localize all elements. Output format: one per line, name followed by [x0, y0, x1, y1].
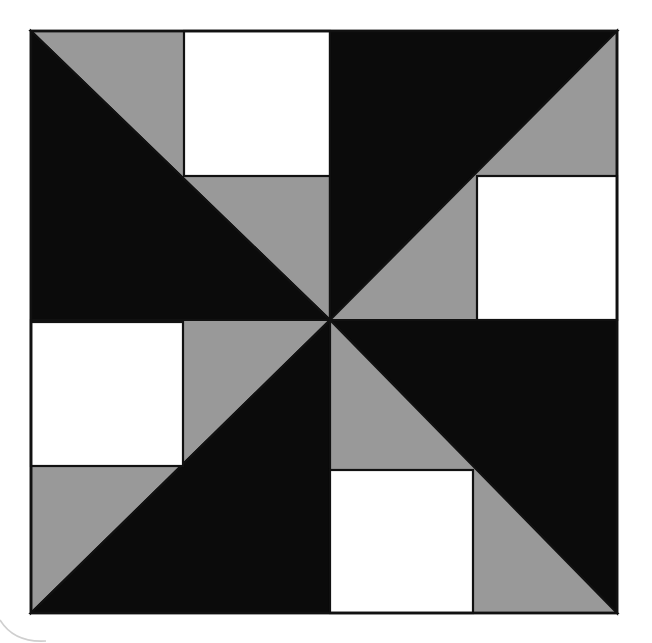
- quadrant-bottom-left: [31, 320, 330, 613]
- figure-canvas: [0, 0, 652, 643]
- quadrant-top-left: [31, 31, 330, 320]
- tl-white-square: [184, 31, 330, 176]
- bl-white-square: [31, 322, 183, 466]
- br-white-square: [330, 470, 473, 613]
- pinwheel-quilt-block-figure: [0, 0, 652, 643]
- tr-white-square: [477, 176, 617, 320]
- quadrant-top-right: [330, 31, 617, 320]
- quadrant-bottom-right: [330, 320, 617, 613]
